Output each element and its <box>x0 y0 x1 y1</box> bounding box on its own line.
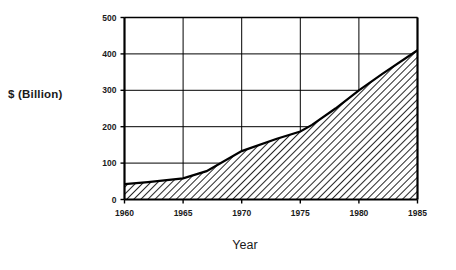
y-tick-label: 500 <box>85 13 117 23</box>
y-tick-label: 200 <box>85 122 117 132</box>
y-tick-label: 0 <box>85 195 117 205</box>
y-tick-label: 400 <box>85 49 117 59</box>
x-tick-label: 1965 <box>174 208 193 218</box>
x-tick-label: 1975 <box>291 208 310 218</box>
x-tick-label: 1970 <box>232 208 251 218</box>
y-tick-label: 100 <box>85 158 117 168</box>
area-chart-plot <box>0 0 456 270</box>
x-tick-label: 1960 <box>115 208 134 218</box>
x-axis-title-text: Year <box>232 238 257 252</box>
x-axis-title: Year <box>0 238 456 252</box>
x-tick-label: 1985 <box>408 208 427 218</box>
x-tick-label: 1980 <box>349 208 368 218</box>
chart-figure: $ (Billion) 0100200300400500 19601965197… <box>0 0 456 270</box>
y-tick-label: 300 <box>85 85 117 95</box>
area-series <box>125 50 418 199</box>
